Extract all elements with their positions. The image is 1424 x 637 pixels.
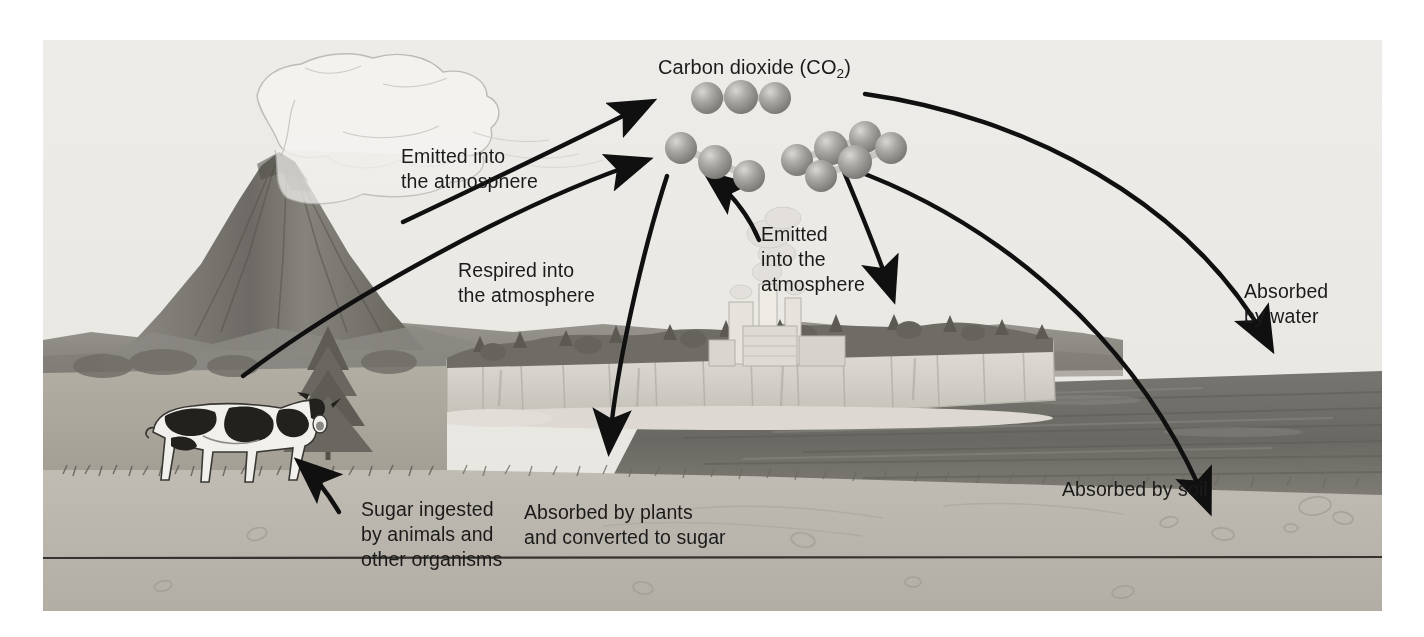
label-sugar-ingested: Sugar ingested by animals and other orga… [361, 497, 502, 572]
label-absorbed-by-water: Absorbed by water [1244, 279, 1328, 329]
label-absorbed-by-plants: Absorbed by plants and converted to suga… [524, 500, 726, 550]
co2-title-suffix: ) [844, 56, 851, 78]
figure-canvas: Carbon dioxide (CO2) Emitted into the at… [0, 0, 1424, 637]
co2-title-prefix: Carbon dioxide (CO [658, 56, 837, 78]
label-respiration: Respired into the atmosphere [458, 258, 595, 308]
co2-title-label: Carbon dioxide (CO2) [658, 55, 851, 82]
label-volcano-emission: Emitted into the atmosphere [401, 144, 538, 194]
label-absorbed-by-soil: Absorbed by soil [1062, 477, 1208, 502]
label-factory-emission: Emitted into the atmosphere [761, 222, 865, 297]
co2-subscript: 2 [837, 66, 845, 81]
co2-molecule-1 [691, 80, 791, 114]
carbon-cycle-figure: Carbon dioxide (CO2) Emitted into the at… [43, 40, 1382, 611]
